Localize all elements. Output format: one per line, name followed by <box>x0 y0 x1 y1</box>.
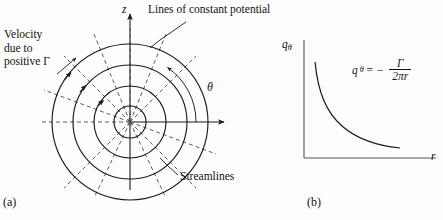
figure-graphics <box>0 0 443 220</box>
theta-angle-arc <box>168 68 197 123</box>
plot-y-axis-label: qθ <box>282 38 292 52</box>
equation-fraction: Γ 2πr <box>389 57 411 82</box>
plot-y-axis-label-sub: θ <box>288 43 292 52</box>
velocity-label: Velocity due to positive Γ <box>4 28 50 69</box>
panel-b-label: (b) <box>307 196 321 209</box>
equation-minus-sign: − <box>377 64 385 76</box>
streamlines-label: Streamlines <box>180 170 234 183</box>
velocity-equation: qθ = − Γ 2πr <box>352 57 411 82</box>
equation-denominator: 2πr <box>389 69 411 82</box>
plot-x-axis-label: r <box>431 150 435 163</box>
equation-equals: = <box>366 64 374 76</box>
streamlines-leader-line <box>160 158 178 175</box>
figure-container: Velocity due to positive Γ Lines of cons… <box>0 0 443 220</box>
velocity-label-line3: positive Γ <box>4 55 50 69</box>
z-axis-label: z <box>122 3 126 16</box>
potential-leader-line <box>150 22 186 48</box>
equation-numerator: Γ <box>394 57 407 69</box>
constant-potential-label: Lines of constant potential <box>148 3 270 16</box>
equation-lhs: q <box>352 64 358 76</box>
velocity-label-line2: due to <box>4 42 50 56</box>
theta-label: θ <box>207 81 213 94</box>
velocity-leader-line <box>57 58 76 74</box>
velocity-label-line1: Velocity <box>4 28 50 42</box>
equation-lhs-sub: θ <box>360 65 364 74</box>
panel-a-label: (a) <box>3 196 16 209</box>
